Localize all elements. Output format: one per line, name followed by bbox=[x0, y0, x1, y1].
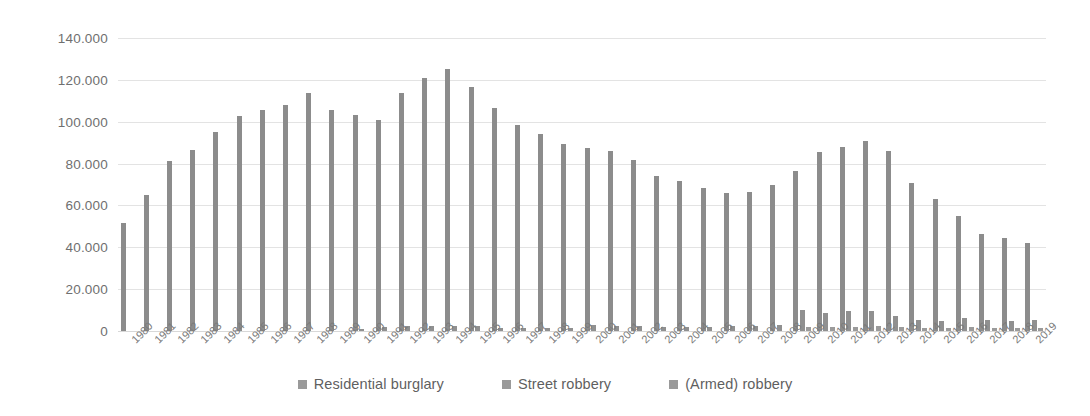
x-tick-label: 1994 bbox=[453, 337, 461, 345]
bar-group bbox=[443, 38, 466, 331]
y-tick-label: 80.000 bbox=[8, 156, 108, 171]
bar-group bbox=[141, 38, 164, 331]
bar bbox=[515, 125, 520, 331]
bar-chart: 020.00040.00060.00080.000100.000120.0001… bbox=[0, 0, 1090, 416]
x-tick-label: 2019 bbox=[1033, 337, 1041, 345]
bar bbox=[538, 134, 543, 331]
x-tick-label: 2017 bbox=[987, 337, 995, 345]
bar-group bbox=[953, 38, 976, 331]
x-tick-label: 2002 bbox=[639, 337, 647, 345]
x-tick-label: 1984 bbox=[221, 337, 229, 345]
x-tick-label: 2013 bbox=[894, 337, 902, 345]
legend-item-label: Residential burglary bbox=[314, 376, 444, 392]
x-tick-label: 2016 bbox=[964, 337, 972, 345]
bar bbox=[724, 193, 729, 331]
bar bbox=[329, 110, 334, 331]
bar bbox=[585, 148, 590, 331]
bar bbox=[469, 87, 474, 331]
bar-group bbox=[907, 38, 930, 331]
bar bbox=[445, 69, 450, 331]
bar-group bbox=[930, 38, 953, 331]
x-tick-label: 1992 bbox=[407, 337, 415, 345]
x-tick-label: 2006 bbox=[732, 337, 740, 345]
x-tick-label: 2018 bbox=[1010, 337, 1018, 345]
bar-group bbox=[489, 38, 512, 331]
bar bbox=[608, 151, 613, 331]
bar bbox=[933, 199, 938, 331]
bar-group bbox=[791, 38, 814, 331]
bar-group bbox=[466, 38, 489, 331]
bar-group bbox=[698, 38, 721, 331]
legend-item[interactable]: Residential burglary bbox=[298, 376, 444, 392]
bar-group bbox=[721, 38, 744, 331]
x-tick-label: 1995 bbox=[477, 337, 485, 345]
bar-group bbox=[1023, 38, 1046, 331]
legend-swatch-icon bbox=[669, 380, 678, 389]
bar-group bbox=[652, 38, 675, 331]
bar bbox=[1002, 238, 1007, 331]
y-tick-label: 100.000 bbox=[8, 114, 108, 129]
bar-group bbox=[837, 38, 860, 331]
bar bbox=[144, 195, 149, 331]
bar bbox=[654, 176, 659, 331]
x-tick-label: 2004 bbox=[685, 337, 693, 345]
y-axis: 020.00040.00060.00080.000100.000120.0001… bbox=[0, 38, 108, 331]
legend-swatch-icon bbox=[502, 380, 511, 389]
x-tick-label: 2015 bbox=[941, 337, 949, 345]
bar bbox=[631, 160, 636, 331]
x-tick-label: 1996 bbox=[500, 337, 508, 345]
bar-group bbox=[536, 38, 559, 331]
bar-group bbox=[188, 38, 211, 331]
x-tick-label: 1997 bbox=[523, 337, 531, 345]
bar-group bbox=[814, 38, 837, 331]
bar bbox=[677, 181, 682, 331]
x-tick-label: 2012 bbox=[871, 337, 879, 345]
bar bbox=[422, 78, 427, 331]
bar-group bbox=[350, 38, 373, 331]
bar bbox=[353, 115, 358, 331]
bar bbox=[886, 151, 891, 331]
legend-item[interactable]: Street robbery bbox=[502, 376, 611, 392]
x-tick-label: 1989 bbox=[337, 337, 345, 345]
bar bbox=[260, 110, 265, 331]
x-tick-label: 1990 bbox=[361, 337, 369, 345]
bar bbox=[121, 223, 126, 331]
x-tick-label: 1981 bbox=[152, 337, 160, 345]
x-tick-label: 1988 bbox=[314, 337, 322, 345]
bar-group bbox=[327, 38, 350, 331]
bar bbox=[561, 144, 566, 331]
y-tick-label: 20.000 bbox=[8, 282, 108, 297]
bar bbox=[213, 132, 218, 331]
bar-group bbox=[280, 38, 303, 331]
bar-group bbox=[675, 38, 698, 331]
bar-group bbox=[582, 38, 605, 331]
x-tick-label: 2000 bbox=[593, 337, 601, 345]
bar-group bbox=[373, 38, 396, 331]
bar bbox=[399, 93, 404, 331]
y-tick-label: 60.000 bbox=[8, 198, 108, 213]
bar-group bbox=[420, 38, 443, 331]
legend-item[interactable]: (Armed) robbery bbox=[669, 376, 792, 392]
x-tick-label: 1991 bbox=[384, 337, 392, 345]
x-tick-label: 1993 bbox=[430, 337, 438, 345]
y-tick-label: 120.000 bbox=[8, 72, 108, 87]
x-tick-label: 1982 bbox=[175, 337, 183, 345]
bar bbox=[909, 183, 914, 331]
bar bbox=[863, 141, 868, 331]
x-tick-label: 1985 bbox=[245, 337, 253, 345]
bar bbox=[793, 171, 798, 331]
bar-group bbox=[234, 38, 257, 331]
bar bbox=[492, 108, 497, 331]
x-tick-label: 2009 bbox=[801, 337, 809, 345]
x-tick-label: 2001 bbox=[616, 337, 624, 345]
bar-group bbox=[164, 38, 187, 331]
bar-group bbox=[304, 38, 327, 331]
bar-group bbox=[211, 38, 234, 331]
bar-group bbox=[257, 38, 280, 331]
x-tick-label: 2011 bbox=[848, 337, 856, 345]
bar bbox=[979, 234, 984, 331]
x-tick-label: 2005 bbox=[709, 337, 717, 345]
legend-swatch-icon bbox=[298, 380, 307, 389]
bar bbox=[283, 105, 288, 331]
bar-group bbox=[605, 38, 628, 331]
